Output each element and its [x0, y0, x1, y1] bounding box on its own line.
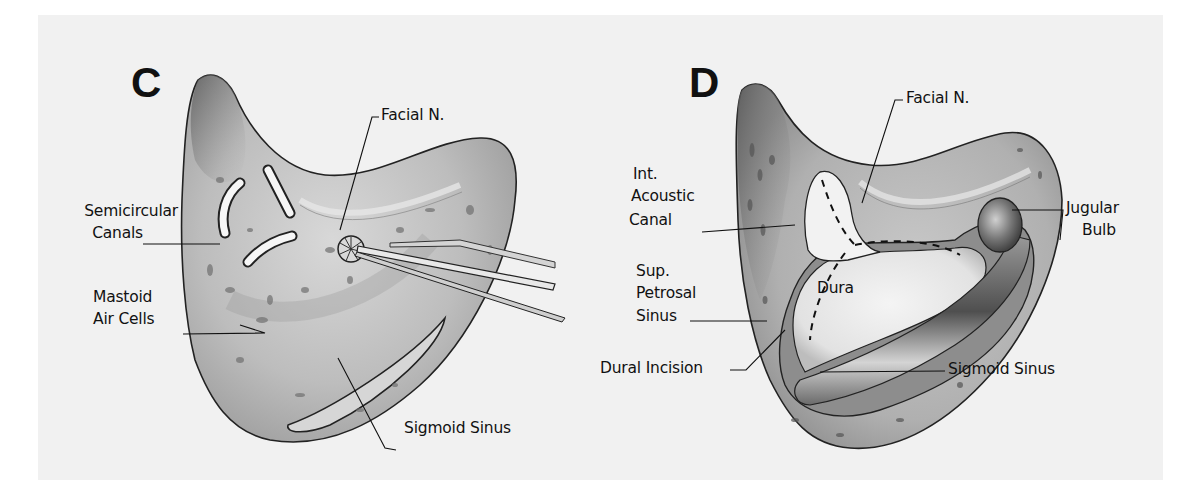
label-facial-nerve-c: Facial N. [381, 107, 444, 123]
label-int-acoustic-canal-line3: Canal [629, 212, 672, 228]
label-sigmoid-sinus-c: Sigmoid Sinus [404, 420, 511, 436]
illustration-canvas [0, 0, 1192, 497]
label-semicircular-canals-line1: Semicircular [48, 203, 178, 219]
label-mastoid-air-cells-line1: Mastoid [93, 289, 152, 305]
panel-letter-c: C [131, 62, 161, 104]
panel-letter-d: D [689, 62, 719, 104]
label-dural-incision: Dural Incision [600, 360, 703, 376]
jugular-bulb [978, 198, 1022, 252]
label-sigmoid-sinus-d: Sigmoid Sinus [948, 361, 1055, 377]
label-sup-petrosal-sinus-line3: Sinus [636, 308, 677, 324]
label-sup-petrosal-sinus-line2: Petrosal [636, 285, 696, 301]
label-sup-petrosal-sinus-line1: Sup. [636, 263, 670, 279]
panel-d-bone [736, 84, 1062, 448]
label-mastoid-air-cells-line2: Air Cells [93, 311, 154, 327]
label-jugular-bulb-line2: Bulb [1082, 222, 1116, 238]
label-facial-nerve-d: Facial N. [906, 90, 969, 106]
label-jugular-bulb-line1: Jugular [1066, 200, 1119, 216]
label-int-acoustic-canal-line1: Int. [633, 166, 658, 182]
label-dura: Dura [817, 280, 854, 296]
label-semicircular-canals-line2: Canals [48, 225, 143, 241]
label-int-acoustic-canal-line2: Acoustic [631, 188, 695, 204]
